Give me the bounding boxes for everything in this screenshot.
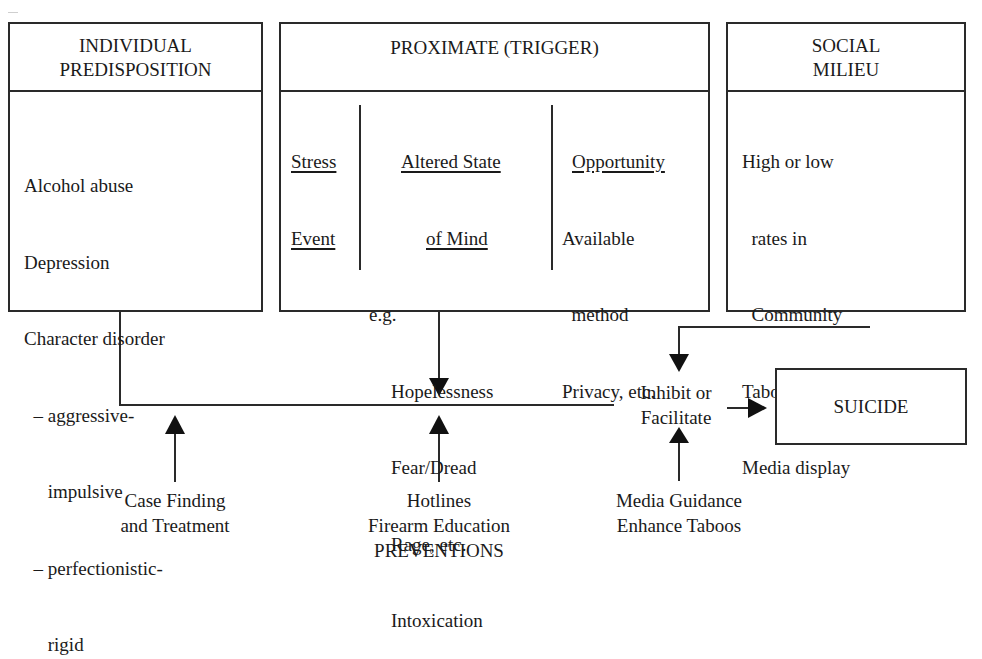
junction-line: Facilitate: [621, 405, 731, 430]
individual-predisposition-header: INDIVIDUAL PREDISPOSITION: [10, 24, 261, 92]
header-line: MILIEU: [728, 58, 964, 82]
altered-state-column: Altered State of Mind e.g. Hopelessness …: [369, 98, 501, 659]
proximate-trigger-header: PROXIMATE (TRIGGER): [281, 24, 708, 92]
list-item: rates in: [742, 226, 850, 252]
column-divider: [359, 105, 361, 270]
proximate-trigger-box: PROXIMATE (TRIGGER) Stress Event Altered…: [279, 22, 710, 312]
column-heading: of Mind: [426, 228, 488, 249]
intervention-line: Hotlines: [339, 488, 539, 513]
individual-predisposition-box: INDIVIDUAL PREDISPOSITION Alcohol abuse …: [8, 22, 263, 312]
intervention-line: Media Guidance: [589, 488, 769, 513]
media-guidance-label: Media Guidance Enhance Taboos: [589, 488, 769, 538]
intervention-line: Firearm Education: [339, 513, 539, 538]
list-item: method: [562, 302, 665, 328]
column-heading: Altered State: [401, 151, 501, 172]
column-divider: [551, 105, 553, 270]
social-milieu-header: SOCIAL MILIEU: [728, 24, 964, 92]
inhibit-facilitate-label: Inhibit or Facilitate: [621, 380, 731, 430]
list-item: High or low: [742, 149, 850, 175]
header-line: INDIVIDUAL: [10, 34, 261, 58]
suicide-box: SUICIDE: [775, 368, 967, 445]
list-item: Community: [742, 302, 850, 328]
individual-predisposition-list: Alcohol abuse Depression Character disor…: [24, 122, 165, 659]
eg-label: e.g.: [369, 302, 501, 328]
header-line: PREDISPOSITION: [10, 58, 261, 82]
list-item: Alcohol abuse: [24, 173, 165, 199]
list-item: – aggressive-: [24, 403, 165, 429]
list-item: Fear/Dread: [369, 455, 501, 481]
intervention-line: Case Finding: [95, 488, 255, 513]
list-item: Available: [562, 226, 665, 252]
list-item: Intoxication: [369, 608, 501, 634]
stress-event-column: Stress Event: [291, 98, 336, 302]
social-milieu-box: SOCIAL MILIEU High or low rates in Commu…: [726, 22, 966, 312]
intervention-line: Enhance Taboos: [589, 513, 769, 538]
junction-line: Inhibit or: [621, 380, 731, 405]
list-item: – perfectionistic-: [24, 556, 165, 582]
intervention-line: and Treatment: [95, 513, 255, 538]
list-item: Character disorder: [24, 326, 165, 352]
header-line: PROXIMATE (TRIGGER): [281, 36, 708, 60]
hotlines-label: Hotlines Firearm Education PREVENTIONS: [339, 488, 539, 563]
column-heading: Event: [291, 228, 335, 249]
arrow-down-social: [669, 354, 689, 372]
preventions-heading: PREVENTIONS: [339, 538, 539, 563]
list-item: Depression: [24, 250, 165, 276]
column-heading: Opportunity: [572, 151, 665, 172]
suicide-label: SUICIDE: [777, 394, 965, 419]
header-line: SOCIAL: [728, 34, 964, 58]
case-finding-label: Case Finding and Treatment: [95, 488, 255, 538]
arrow-up-case-finding: [165, 415, 185, 434]
list-item: Hopelessness: [369, 379, 501, 405]
column-heading: Stress: [291, 151, 336, 172]
list-item: Media display: [742, 455, 850, 481]
social-milieu-list: High or low rates in Community Taboos Me…: [742, 98, 850, 532]
list-item: rigid: [24, 632, 165, 658]
